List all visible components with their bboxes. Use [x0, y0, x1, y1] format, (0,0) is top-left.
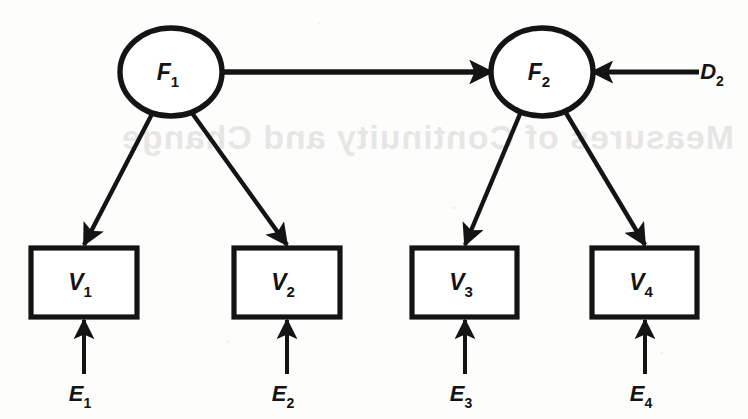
label-e1: E1 — [69, 381, 92, 411]
path-f1-to-v2 — [192, 113, 287, 245]
path-f1-to-v1 — [84, 114, 152, 245]
path-f2-to-v4 — [566, 113, 645, 245]
figure-canvas: Measures of Continuity and Change — [0, 0, 748, 419]
path-diagram: F1 F2 V1 V2 V3 V4 E1 E2 E3 E4 — [0, 0, 748, 419]
latent-node-f1 — [120, 28, 222, 116]
latent-node-f2 — [491, 28, 593, 116]
label-e2: E2 — [272, 381, 295, 411]
label-d2: D2 — [700, 59, 724, 89]
label-e3: E3 — [450, 381, 473, 411]
label-e4: E4 — [630, 381, 653, 411]
path-f2-to-v3 — [465, 114, 520, 245]
